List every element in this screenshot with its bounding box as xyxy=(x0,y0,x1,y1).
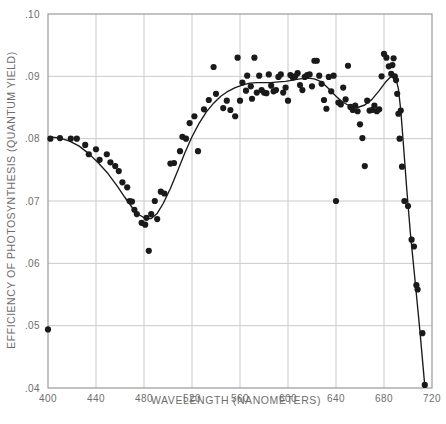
photosynthesis-action-spectrum-figure: 400440480520560600640680720 .04.05.06.07… xyxy=(0,0,446,424)
y-tick-label: .06 xyxy=(25,258,40,269)
data-point xyxy=(47,136,53,142)
data-point xyxy=(249,96,255,102)
data-point xyxy=(285,98,291,104)
data-point xyxy=(104,151,110,157)
data-point xyxy=(237,98,243,104)
data-point xyxy=(239,79,245,85)
data-point xyxy=(422,382,428,388)
data-point xyxy=(116,168,122,174)
y-tick-label: .04 xyxy=(25,383,40,394)
data-point xyxy=(362,163,368,169)
data-point xyxy=(391,55,397,61)
data-point xyxy=(154,216,160,222)
data-point xyxy=(171,160,177,166)
data-point xyxy=(45,326,51,332)
data-point xyxy=(86,151,92,157)
data-point xyxy=(376,106,382,112)
x-tick-label: 720 xyxy=(423,393,441,404)
data-point xyxy=(307,71,313,77)
data-point xyxy=(409,237,415,243)
data-point xyxy=(251,55,257,61)
data-point xyxy=(331,73,337,79)
data-point xyxy=(235,55,241,61)
data-point xyxy=(340,84,346,90)
x-tick-label: 640 xyxy=(327,393,345,404)
data-point xyxy=(177,148,183,154)
data-point xyxy=(161,190,167,196)
y-tick-label: .10 xyxy=(25,9,40,20)
data-point xyxy=(256,73,262,79)
y-axis-title: EFFICIENCY OF PHOTOSYNTHESIS (QUANTUM YI… xyxy=(5,51,17,348)
figure-background xyxy=(0,0,446,424)
data-point xyxy=(201,106,207,112)
data-point xyxy=(355,108,361,114)
data-point xyxy=(319,81,325,87)
data-point xyxy=(152,198,158,204)
data-point xyxy=(93,146,99,152)
data-point xyxy=(187,120,193,126)
data-point xyxy=(393,77,399,83)
data-point xyxy=(129,199,135,205)
x-tick-label: 680 xyxy=(375,393,393,404)
data-point xyxy=(359,135,365,141)
data-point xyxy=(383,55,389,61)
data-point xyxy=(119,179,125,185)
data-point xyxy=(278,71,284,77)
data-point xyxy=(405,203,411,209)
data-point xyxy=(206,97,212,103)
y-tick-label: .09 xyxy=(25,71,40,82)
data-point xyxy=(345,63,351,69)
data-point xyxy=(266,71,272,77)
data-point xyxy=(389,62,395,68)
data-point xyxy=(191,113,197,119)
data-point xyxy=(57,135,63,141)
data-point xyxy=(338,101,344,107)
y-tick-label: .08 xyxy=(25,133,40,144)
data-point xyxy=(415,286,421,292)
data-point xyxy=(399,164,405,170)
data-point xyxy=(419,330,425,336)
data-point xyxy=(220,105,226,111)
data-point xyxy=(68,136,74,142)
data-point xyxy=(244,73,250,79)
y-tick-label: .05 xyxy=(25,320,40,331)
chart-canvas: 400440480520560600640680720 .04.05.06.07… xyxy=(0,0,446,424)
data-point xyxy=(263,90,269,96)
data-point xyxy=(195,148,201,154)
data-point xyxy=(316,73,322,79)
data-point xyxy=(333,198,339,204)
data-point xyxy=(148,211,154,217)
data-point xyxy=(232,113,238,119)
data-point xyxy=(97,157,103,163)
data-point xyxy=(323,106,329,112)
data-point xyxy=(394,91,400,97)
data-point xyxy=(401,198,407,204)
data-point xyxy=(74,136,80,142)
data-point xyxy=(343,96,349,102)
data-point xyxy=(227,107,233,113)
y-tick-label: .07 xyxy=(25,196,40,207)
data-point xyxy=(328,88,334,94)
data-point xyxy=(352,103,358,109)
data-point xyxy=(321,97,327,103)
data-point xyxy=(309,83,315,89)
data-point xyxy=(82,142,88,148)
data-point xyxy=(364,98,370,104)
data-point xyxy=(134,211,140,217)
data-point xyxy=(112,163,118,169)
data-point xyxy=(357,121,363,127)
x-tick-label: 440 xyxy=(87,393,105,404)
data-point xyxy=(411,243,417,249)
data-point xyxy=(295,70,301,76)
x-axis-title: WAVELENGTH (NANOMETERS) xyxy=(151,394,321,406)
data-point xyxy=(124,184,130,190)
data-point xyxy=(283,84,289,90)
data-point xyxy=(314,58,320,64)
data-point xyxy=(243,88,249,94)
data-point xyxy=(379,73,385,79)
data-point xyxy=(213,91,219,97)
data-point xyxy=(268,83,274,89)
data-point xyxy=(224,98,230,104)
x-tick-label: 400 xyxy=(39,393,57,404)
data-point xyxy=(299,87,305,93)
